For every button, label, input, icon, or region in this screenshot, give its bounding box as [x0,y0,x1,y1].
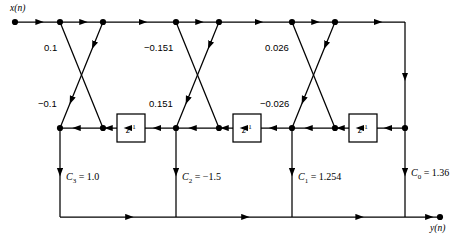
mid-node-left-3 [289,125,295,131]
mid-node-right-1 [100,125,106,131]
top-node-4 [289,19,295,25]
input-node [12,19,18,25]
top-node-1 [100,19,106,25]
coef-down-label-2: 0.151 [149,99,173,109]
signal-flow-diagram: x(n) y(n) 0.1−0.1−0.1510.1510.026−0.026 … [0,0,462,245]
right-feedback-node [402,125,408,131]
mid-node-right-3 [332,125,338,131]
mid-node-left-2 [173,125,179,131]
top-node-5 [332,19,338,25]
coef-down-label-3: −0.026 [260,99,289,109]
tap-c2-label: C2 = −1.5 [182,172,221,185]
tap-c0-label: C0 = 1.36 [411,168,449,181]
delay-label-2: z-1 [242,124,252,135]
coef-up-label-1: 0.1 [44,43,57,53]
output-label: y(n) [430,224,445,234]
tap-c3-label: C3 = 1.0 [66,172,99,185]
mid-node-right-2 [216,125,222,131]
top-node-2 [173,19,179,25]
top-node-0 [57,19,63,25]
coef-up-label-3: 0.026 [265,43,289,53]
top-node-3 [216,19,222,25]
delay-label-3: z-1 [358,124,368,135]
input-label: x(n) [10,4,25,14]
diagram-canvas [0,0,462,245]
tap-c1-label: C1 = 1.254 [298,172,341,185]
coef-up-label-2: −0.151 [144,43,173,53]
coef-down-label-1: −0.1 [38,99,57,109]
delay-label-1: z-1 [126,124,136,135]
mid-node-left-1 [57,125,63,131]
output-node [437,214,443,220]
